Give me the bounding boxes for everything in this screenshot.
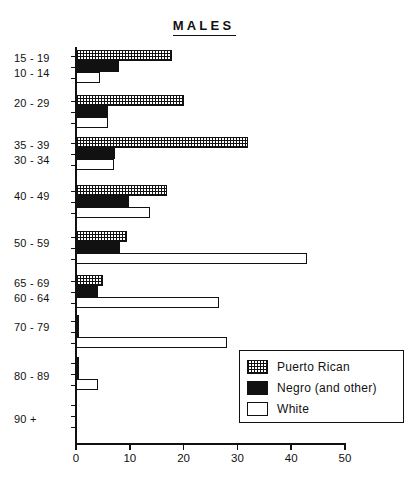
y-axis-label: 10 - 14 bbox=[14, 67, 50, 79]
y-axis-label: 40 - 49 bbox=[14, 190, 50, 202]
legend-item: Puerto Rican bbox=[247, 356, 403, 377]
males-population-bar-chart: MALES 15 - 1910 - 1420 - 2935 - 3930 - 3… bbox=[0, 0, 409, 491]
y-axis-tick bbox=[71, 303, 76, 304]
bar-white bbox=[76, 159, 114, 170]
bar-puerto-rican bbox=[76, 275, 103, 286]
y-axis-tick bbox=[71, 213, 76, 214]
y-axis-tick bbox=[71, 101, 76, 102]
x-axis-tick bbox=[75, 443, 77, 450]
bar-white bbox=[76, 117, 108, 128]
x-axis-tick bbox=[183, 443, 185, 450]
legend-label-white: White bbox=[277, 402, 309, 416]
y-axis-label: 60 - 64 bbox=[14, 292, 50, 304]
bar-white bbox=[76, 72, 100, 83]
bar-puerto-rican bbox=[76, 315, 79, 326]
legend-label-puerto-rican: Puerto Rican bbox=[277, 360, 350, 374]
chart-title: MALES bbox=[0, 18, 409, 33]
bar-negro-and-other bbox=[76, 326, 79, 337]
legend-label-negro-and-other: Negro (and other) bbox=[277, 381, 377, 395]
x-axis-tick-label: 20 bbox=[164, 452, 204, 464]
legend-swatch-puerto-rican bbox=[247, 360, 268, 374]
bar-group bbox=[76, 275, 345, 308]
x-axis-tick bbox=[237, 443, 239, 450]
y-axis-label: 80 - 89 bbox=[14, 370, 50, 382]
y-axis-label: 65 - 69 bbox=[14, 277, 50, 289]
y-axis-tick bbox=[71, 112, 76, 113]
y-axis-tick bbox=[71, 202, 76, 203]
bar-negro-and-other bbox=[76, 148, 115, 159]
bar-negro-and-other bbox=[76, 368, 79, 379]
bar-negro-and-other bbox=[76, 286, 98, 297]
y-axis-tick bbox=[71, 292, 76, 293]
bar-negro-and-other bbox=[76, 106, 108, 117]
y-axis-tick bbox=[71, 237, 76, 238]
y-axis-label: 15 - 19 bbox=[14, 52, 50, 64]
y-axis-tick bbox=[71, 78, 76, 79]
y-axis-tick bbox=[71, 67, 76, 68]
bar-group bbox=[76, 50, 345, 83]
bar-puerto-rican bbox=[76, 357, 79, 368]
bar-white bbox=[76, 207, 150, 218]
bar-negro-and-other bbox=[76, 242, 120, 253]
y-axis-tick bbox=[71, 343, 76, 344]
y-axis-tick bbox=[71, 416, 76, 417]
x-axis-tick-label: 10 bbox=[110, 452, 150, 464]
x-axis-line bbox=[76, 443, 345, 445]
y-axis-tick bbox=[71, 427, 76, 428]
legend-item: White bbox=[247, 398, 403, 419]
legend-swatch-white bbox=[247, 402, 268, 416]
y-axis-label: 70 - 79 bbox=[14, 321, 50, 333]
bar-negro-and-other bbox=[76, 196, 129, 207]
legend-item: Negro (and other) bbox=[247, 377, 403, 398]
y-axis-label: 30 - 34 bbox=[14, 154, 50, 166]
x-axis-tick bbox=[344, 443, 346, 450]
bar-group bbox=[76, 315, 345, 348]
y-axis-tick bbox=[71, 154, 76, 155]
bar-puerto-rican bbox=[76, 50, 172, 61]
x-axis-tick-label: 30 bbox=[217, 452, 257, 464]
x-axis-tick bbox=[129, 443, 131, 450]
bar-group bbox=[76, 231, 345, 264]
y-axis-tick bbox=[71, 56, 76, 57]
x-axis-tick-label: 50 bbox=[325, 452, 365, 464]
y-axis-tick bbox=[71, 321, 76, 322]
y-axis-tick bbox=[71, 374, 76, 375]
y-axis-tick bbox=[71, 332, 76, 333]
y-axis-tick bbox=[71, 248, 76, 249]
bar-negro-and-other bbox=[76, 61, 119, 72]
bar-white bbox=[76, 337, 227, 348]
chart-title-text: MALES bbox=[173, 18, 237, 36]
bar-group bbox=[76, 137, 345, 170]
bar-white bbox=[76, 297, 219, 308]
x-axis-tick-label: 0 bbox=[56, 452, 96, 464]
y-axis-label: 90 + bbox=[14, 413, 37, 425]
y-axis-tick bbox=[71, 281, 76, 282]
bar-group bbox=[76, 95, 345, 128]
bar-puerto-rican bbox=[76, 137, 248, 148]
legend-box: Puerto Rican Negro (and other) White bbox=[239, 350, 404, 423]
y-axis-label: 20 - 29 bbox=[14, 97, 50, 109]
bar-puerto-rican bbox=[76, 185, 167, 196]
x-axis-tick-label: 40 bbox=[271, 452, 311, 464]
y-axis-tick bbox=[71, 385, 76, 386]
y-axis-tick bbox=[71, 363, 76, 364]
y-axis-label: 50 - 59 bbox=[14, 237, 50, 249]
y-axis-label: 35 - 39 bbox=[14, 139, 50, 151]
y-axis-tick bbox=[71, 191, 76, 192]
bar-white bbox=[76, 379, 98, 390]
y-axis-tick bbox=[71, 123, 76, 124]
x-axis-tick bbox=[290, 443, 292, 450]
y-axis-tick bbox=[71, 143, 76, 144]
y-axis-tick bbox=[71, 165, 76, 166]
bar-white bbox=[76, 253, 307, 264]
y-axis-tick bbox=[71, 405, 76, 406]
bar-group bbox=[76, 185, 345, 218]
bar-puerto-rican bbox=[76, 231, 127, 242]
y-axis-tick bbox=[71, 259, 76, 260]
legend-swatch-negro-and-other bbox=[247, 381, 268, 395]
bar-puerto-rican bbox=[76, 95, 184, 106]
